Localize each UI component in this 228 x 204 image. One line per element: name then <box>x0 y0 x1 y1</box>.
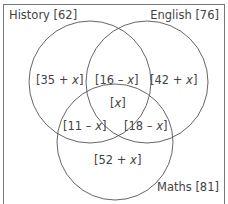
venn-diagram: History [62] English [76] Maths [81] [35… <box>0 0 228 204</box>
region-history-only: [35 + x] <box>36 73 83 87</box>
region-english-maths: [18 – x] <box>124 119 168 133</box>
region-all-three: [x] <box>110 96 126 110</box>
region-maths-only: [52 + x] <box>94 153 141 167</box>
region-english-only: [42 + x] <box>150 73 197 87</box>
region-history-maths: [11 – x] <box>63 119 107 133</box>
english-set-label: English [76] <box>150 8 219 22</box>
maths-set-label: Maths [81] <box>157 180 219 194</box>
region-history-english: [16 – x] <box>95 73 139 87</box>
history-set-label: History [62] <box>9 8 77 22</box>
